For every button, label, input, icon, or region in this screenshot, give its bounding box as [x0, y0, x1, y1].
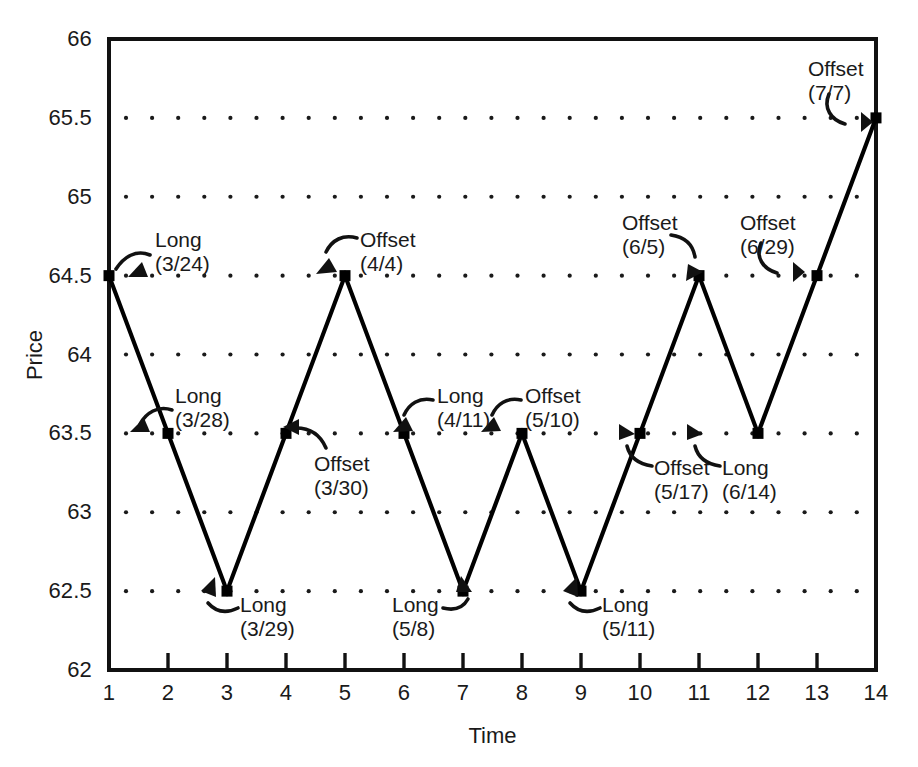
annotation-label: Long [722, 456, 777, 480]
grid-dot [411, 352, 415, 356]
grid-dot [202, 116, 206, 120]
annotation-date: (3/29) [240, 617, 295, 641]
grid-dot [150, 274, 154, 278]
grid-dot [568, 195, 572, 199]
grid-dot [124, 431, 128, 435]
grid-dot [672, 116, 676, 120]
annotation-arrow-curve [208, 603, 238, 611]
y-tick-label: 62.5 [20, 578, 92, 604]
annotation-arrow-head [128, 262, 148, 277]
data-point-marker [812, 270, 823, 281]
annotation-label: Offset [360, 228, 416, 252]
y-tick-label: 65.5 [20, 105, 92, 131]
grid-dot [646, 195, 650, 199]
grid-dot [254, 352, 258, 356]
annotation-arrow-head [393, 417, 413, 432]
grid-dot [124, 116, 128, 120]
grid-dot [228, 431, 232, 435]
grid-dot [855, 195, 859, 199]
grid-dot [489, 352, 493, 356]
grid-dot [176, 116, 180, 120]
grid-dot [594, 510, 598, 514]
annotation-arrow-curve [443, 599, 468, 609]
grid-dot [411, 116, 415, 120]
trade-annotation: Offset(3/30) [314, 452, 370, 500]
grid-dot [594, 274, 598, 278]
x-tick-label: 2 [162, 680, 174, 706]
grid-dot [281, 195, 285, 199]
annotation-label: Offset [525, 384, 581, 408]
grid-dot [307, 274, 311, 278]
grid-dot [150, 352, 154, 356]
grid-dot [359, 431, 363, 435]
trade-annotation: Long(5/11) [602, 593, 655, 641]
annotation-label: Long [602, 593, 655, 617]
grid-dot [776, 589, 780, 593]
grid-dot [228, 116, 232, 120]
data-point-marker [340, 270, 351, 281]
grid-dot [829, 352, 833, 356]
grid-dot [646, 510, 650, 514]
grid-dot [202, 195, 206, 199]
x-tick-label: 6 [398, 680, 410, 706]
grid-dot [568, 431, 572, 435]
grid-dot [124, 352, 128, 356]
grid-dot [542, 352, 546, 356]
grid-dot [855, 352, 859, 356]
x-tick-label: 9 [575, 680, 587, 706]
x-tick-label: 13 [805, 680, 830, 706]
grid-dot [620, 510, 624, 514]
grid-dot [463, 195, 467, 199]
annotation-label: Long [155, 228, 210, 252]
grid-dot [803, 116, 807, 120]
data-point-marker [163, 428, 174, 439]
grid-dot [254, 431, 258, 435]
annotation-arrow-head [619, 424, 635, 440]
x-tick-label: 12 [746, 680, 771, 706]
grid-dot [698, 116, 702, 120]
grid-dot [646, 274, 650, 278]
grid-dot [359, 116, 363, 120]
grid-dot [829, 510, 833, 514]
grid-dot [829, 195, 833, 199]
grid-dot [542, 116, 546, 120]
grid-dot [150, 431, 154, 435]
grid-dot [333, 195, 337, 199]
grid-dot [568, 274, 572, 278]
trade-annotation: Long(3/29) [240, 593, 295, 641]
annotation-label: Offset [808, 57, 864, 81]
annotation-label: Long [392, 593, 439, 617]
grid-dot [620, 195, 624, 199]
grid-dot [724, 195, 728, 199]
grid-dot [150, 116, 154, 120]
grid-dot [437, 352, 441, 356]
x-tick-label: 10 [628, 680, 653, 706]
y-tick-label: 66 [20, 26, 92, 52]
grid-dot [568, 116, 572, 120]
grid-dot [359, 195, 363, 199]
grid-dot [750, 195, 754, 199]
x-axis-title: Time [468, 723, 516, 749]
grid-dot [385, 431, 389, 435]
grid-dot [333, 589, 337, 593]
grid-dot [124, 510, 128, 514]
grid-dot [594, 195, 598, 199]
grid-dot [620, 352, 624, 356]
x-tick-label: 5 [339, 680, 351, 706]
grid-dot [489, 589, 493, 593]
grid-dot [333, 352, 337, 356]
grid-dot [803, 352, 807, 356]
grid-dot [176, 352, 180, 356]
grid-dot [803, 589, 807, 593]
annotation-date: (5/10) [525, 408, 581, 432]
grid-dot [646, 116, 650, 120]
grid-dot [672, 431, 676, 435]
trade-annotation: Offset(6/29) [740, 211, 796, 259]
grid-dot [281, 510, 285, 514]
grid-dot [855, 589, 859, 593]
annotation-arrow-curve [404, 399, 433, 415]
annotation-label: Long [175, 384, 230, 408]
grid-dot [333, 274, 337, 278]
grid-dot [776, 510, 780, 514]
grid-dot [750, 510, 754, 514]
